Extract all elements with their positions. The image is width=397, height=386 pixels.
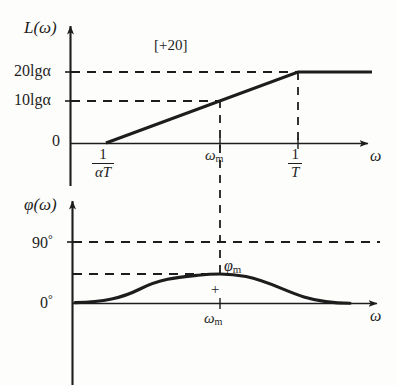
fraction-numerator: 1 <box>92 147 114 164</box>
omega-subscript-m: m <box>215 316 223 327</box>
degree-sign: ° <box>48 232 53 246</box>
top-x-axis-label: ω <box>370 148 381 164</box>
magnitude-asymptote-curve <box>106 72 372 143</box>
bottom-y-axis-label: φ(ω) <box>24 196 57 213</box>
top-ytick-label-20lga: 20lgα <box>14 63 51 79</box>
bottom-x-axis-label: ω <box>370 308 381 324</box>
omega-symbol: ω <box>204 310 215 326</box>
top-ytick-label-zero: 0 <box>52 133 60 149</box>
plot-vector-layer <box>0 0 397 386</box>
fraction-numerator: 1 <box>288 147 302 164</box>
bode-plot-figure: L(ω) 20lgα 10lgα 0 [+20] 1 αT ωm 1 T ω φ… <box>0 0 397 386</box>
bottom-ytick-label-90deg: 90° <box>32 234 53 251</box>
phase-peak-label: φm <box>224 258 241 275</box>
top-xtick-label-inv-alpha-T: 1 αT <box>92 147 114 181</box>
phi-subscript-m: m <box>233 263 241 275</box>
bottom-xtick-label-omega-m: ωm <box>204 311 223 327</box>
top-ytick-label-10lga: 10lgα <box>14 92 51 108</box>
sign-marker-plus: + <box>211 282 219 297</box>
ytick-value: 90 <box>32 234 48 251</box>
top-xtick-label-omega-m: ωm <box>205 148 224 164</box>
omega-symbol: ω <box>205 147 216 163</box>
fraction-1-over-T: 1 T <box>288 147 302 181</box>
fraction-denominator: αT <box>92 164 114 181</box>
slope-annotation: [+20] <box>154 38 187 53</box>
phi-symbol: φ <box>224 257 233 274</box>
top-xtick-label-inv-T: 1 T <box>288 147 302 181</box>
ytick-value: 0 <box>40 294 48 311</box>
degree-sign: ° <box>48 292 53 306</box>
fraction-denominator: T <box>288 164 302 181</box>
omega-subscript-m: m <box>216 153 224 164</box>
bottom-plot-group <box>67 201 380 385</box>
top-y-axis-label: L(ω) <box>24 19 57 36</box>
fraction-1-over-alpha-T: 1 αT <box>92 147 114 181</box>
bottom-ytick-label-zero-deg: 0° <box>40 294 53 311</box>
